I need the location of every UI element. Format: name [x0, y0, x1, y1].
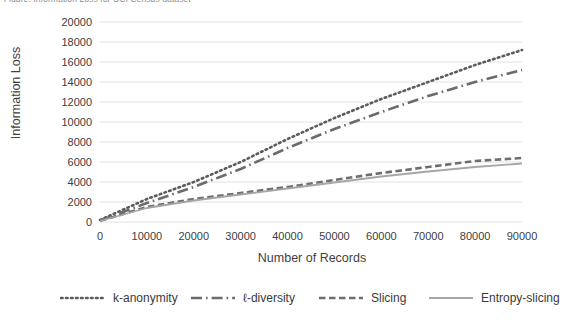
- legend-item[interactable]: k-anonymity: [60, 288, 178, 308]
- x-axis-title: Number of Records: [100, 251, 524, 265]
- chart-figure: Figure: Information Loss for UCI Census …: [0, 0, 568, 323]
- x-tick-label: 20000: [178, 230, 209, 242]
- series-line-1: [100, 70, 522, 221]
- legend-swatch-dashed-icon: [318, 291, 364, 305]
- x-axis-tick-labels: 0100002000030000400005000060000700008000…: [0, 230, 568, 246]
- x-tick-label: 90000: [507, 230, 538, 242]
- legend-label: ℓ-diversity: [243, 291, 295, 305]
- series-line-2: [100, 158, 522, 221]
- x-tick-label: 30000: [225, 230, 256, 242]
- x-tick-label: 60000: [366, 230, 397, 242]
- x-tick-label: 40000: [272, 230, 303, 242]
- x-tick-label: 80000: [460, 230, 491, 242]
- x-tick-label: 10000: [132, 230, 163, 242]
- figure-caption: Figure: Information Loss for UCI Census …: [4, 0, 191, 2]
- legend-label: Slicing: [371, 291, 406, 305]
- x-tick-label: 70000: [413, 230, 444, 242]
- legend-label: Entropy-slicing: [481, 291, 560, 305]
- legend-swatch-solid-icon: [428, 291, 474, 305]
- legend-item[interactable]: ℓ-diversity: [190, 288, 295, 308]
- legend-item[interactable]: Entropy-slicing: [428, 288, 560, 308]
- x-tick-label: 50000: [319, 230, 350, 242]
- plot-area-wrapper: Information Loss 02000400060008000100001…: [0, 8, 568, 270]
- legend-swatch-dash-dot-icon: [190, 291, 236, 305]
- series-line-0: [100, 50, 522, 220]
- x-tick-label: 0: [97, 230, 103, 242]
- legend-swatch-dotted-icon: [60, 291, 106, 305]
- legend-label: k-anonymity: [113, 291, 178, 305]
- chart-legend: k-anonymityℓ-diversitySlicingEntropy-sli…: [0, 288, 568, 316]
- legend-item[interactable]: Slicing: [318, 288, 406, 308]
